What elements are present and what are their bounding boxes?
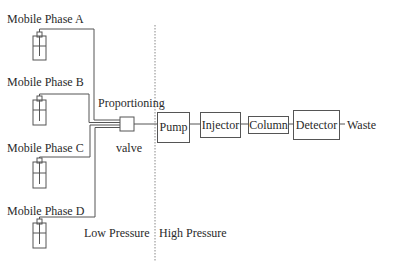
detector-label: Detector <box>296 118 337 133</box>
low-pressure-label: Low Pressure <box>84 226 150 240</box>
detector-box: Detector <box>293 110 340 140</box>
mobile-phase-d-label: Mobile Phase D <box>7 204 84 218</box>
flask-icon-c <box>33 158 46 188</box>
valve-label: valve <box>116 141 142 155</box>
mobile-phase-b-label: Mobile Phase B <box>7 75 84 89</box>
injector-box: Injector <box>200 112 241 138</box>
flask-icon-b <box>33 96 46 125</box>
injector-label: Injector <box>202 118 239 133</box>
pump-box: Pump <box>157 112 190 143</box>
proportioning-label: Proportioning <box>98 96 165 110</box>
pump-label: Pump <box>159 120 187 135</box>
column-label: Column <box>249 118 288 133</box>
mobile-phase-a-label: Mobile Phase A <box>7 12 84 26</box>
waste-label: Waste <box>347 118 376 132</box>
mobile-phase-c-label: Mobile Phase C <box>7 141 84 155</box>
flask-icon-a <box>33 32 46 60</box>
high-pressure-label: High Pressure <box>159 226 227 240</box>
flask-icon-d <box>33 219 46 248</box>
column-box: Column <box>248 116 289 134</box>
